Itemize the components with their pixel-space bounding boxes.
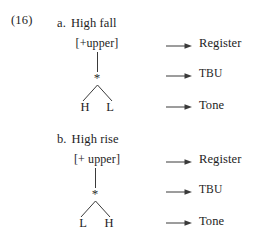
arrow-right-icon (166, 42, 192, 50)
example-figure: (16) a.High fall [+upper] * H L Register… (0, 0, 257, 243)
item-a-association-line (97, 52, 98, 72)
item-b-tbu-star: * (89, 187, 101, 200)
arrow-right-icon (166, 72, 192, 80)
item-b-tone-right: H (102, 216, 116, 231)
item-b-arrow-tone (166, 219, 192, 227)
item-a-arrow-tone (166, 103, 192, 111)
item-b-title: High rise (72, 132, 119, 146)
item-b-register-feature: [+ upper] (47, 152, 147, 167)
item-a-heading: a.High fall (57, 13, 117, 31)
item-b-heading: b.High rise (57, 129, 119, 147)
item-a-tone-right: L (103, 100, 117, 115)
item-a-marker: a. (57, 16, 66, 30)
item-b-label: b.High rise (57, 132, 119, 146)
item-b-tone-left: L (76, 216, 90, 231)
item-b-arrow-tbu (166, 188, 192, 196)
arrow-right-icon (166, 103, 192, 111)
item-a-title: High fall (71, 16, 117, 30)
item-a-tone-left: H (78, 100, 92, 115)
item-b-arrow-register (166, 158, 192, 166)
item-a-register-feature: [+upper] (47, 36, 147, 51)
item-a-tbu-star: * (91, 71, 103, 84)
item-b-tier-register: Register (199, 152, 241, 167)
item-a-arrow-tbu (166, 72, 192, 80)
item-a-tier-tbu: TBU (199, 67, 222, 79)
item-a-tier-tone: Tone (199, 98, 224, 113)
arrow-right-icon (166, 158, 192, 166)
item-b-tier-tone: Tone (199, 214, 224, 229)
item-b-tier-tbu: TBU (199, 183, 222, 195)
item-b-association-line (95, 168, 96, 188)
arrow-right-icon (166, 188, 192, 196)
arrow-right-icon (166, 219, 192, 227)
item-a-tier-register: Register (199, 36, 241, 51)
item-b-marker: b. (57, 132, 67, 146)
example-number: (16) (11, 13, 33, 28)
item-a-arrow-register (166, 42, 192, 50)
item-a-label: a.High fall (57, 16, 117, 30)
